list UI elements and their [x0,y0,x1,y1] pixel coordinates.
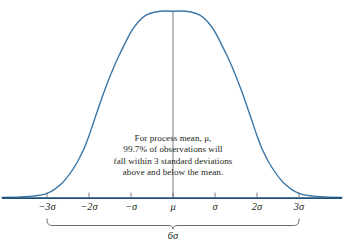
axis-tick-label-minus-1-sigma: −σ [125,201,137,212]
axis-tick-label-plus-2-sigma: 2σ [252,201,262,212]
normal-distribution-figure: For process mean, μ, 99.7% of observatio… [0,0,344,249]
annotation-line-2: 99.7% of observations will [88,144,258,155]
axis-tick-label-minus-2-sigma: −2σ [80,201,97,212]
axis-tick-marks [47,193,299,199]
six-sigma-brace-label: 6σ [168,230,178,241]
annotation-line-4: above and below the mean. [88,167,258,178]
axis-tick-label-plus-3-sigma: 3σ [294,201,304,212]
axis-tick-label-plus-1-sigma: σ [212,201,217,212]
annotation-line-1: For process mean, μ, [88,133,258,144]
axis-tick-label-minus-3-sigma: −3σ [38,201,55,212]
annotation-text-block: For process mean, μ, 99.7% of observatio… [88,133,258,178]
six-sigma-brace [47,219,299,229]
axis-tick-label-mu: μ [170,201,175,212]
annotation-line-3: fall within 3 standard deviations [88,156,258,167]
